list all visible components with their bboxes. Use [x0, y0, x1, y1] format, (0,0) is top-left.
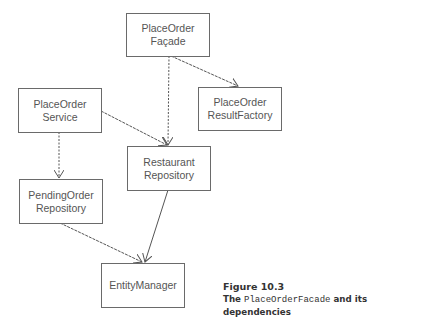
- node-label-line2: Repository: [144, 169, 194, 182]
- node-label-line2: Façade: [150, 35, 185, 48]
- node-label-line1: PlaceOrder: [33, 98, 86, 111]
- node-label-line1: EntityManager: [109, 279, 177, 292]
- caption-prefix: The: [223, 294, 244, 304]
- node-pendingorder-repository: PendingOrder Repository: [19, 179, 103, 224]
- node-entitymanager: EntityManager: [101, 263, 185, 308]
- edge-facade-to-result-factory: [171, 56, 238, 86]
- node-label-line2: Service: [42, 111, 77, 124]
- edge-restaurant-to-entity-manager: [145, 190, 168, 262]
- node-label-line1: PendingOrder: [28, 189, 93, 202]
- node-label-line1: PlaceOrder: [213, 96, 266, 109]
- node-label-line1: Restaurant: [143, 156, 194, 169]
- figure-label: Figure 10.3: [223, 281, 436, 293]
- node-placeorder-facade: PlaceOrder Façade: [126, 13, 210, 57]
- node-label-line2: Repository: [36, 202, 86, 215]
- edge-pending-order-to-entity-manager: [60, 223, 142, 262]
- edge-facade-to-restaurant-repository: [168, 56, 169, 145]
- node-label-line1: PlaceOrder: [141, 22, 194, 35]
- node-placeorder-resultfactory: PlaceOrder ResultFactory: [198, 87, 282, 131]
- figure-caption: Figure 10.3 The PlaceOrderFacade and its…: [223, 281, 436, 318]
- node-label-line2: ResultFactory: [208, 109, 273, 122]
- caption-code: PlaceOrderFacade: [244, 295, 330, 305]
- node-placeorder-service: PlaceOrder Service: [18, 88, 102, 133]
- figure-description: The PlaceOrderFacade and its dependencie…: [223, 293, 436, 318]
- node-restaurant-repository: Restaurant Repository: [127, 146, 211, 191]
- dependency-arrows: [0, 0, 436, 323]
- edge-service-to-restaurant-repository: [101, 111, 167, 145]
